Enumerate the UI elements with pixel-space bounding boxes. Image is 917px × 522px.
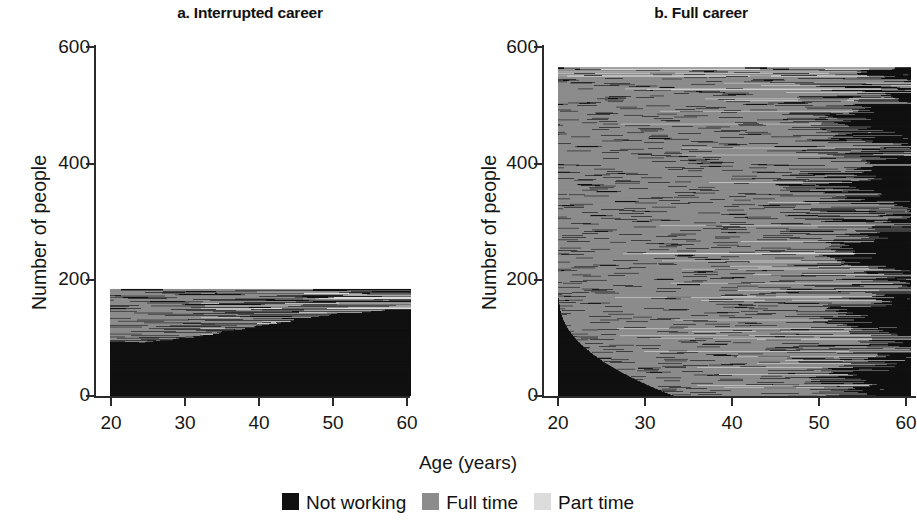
panel-a-ytick-mark-400 — [86, 163, 95, 165]
legend-label-not-working: Not working — [306, 493, 406, 512]
panel-b-xtick-mark-50 — [818, 397, 820, 406]
panel-a-xtick-mark-40 — [258, 397, 260, 406]
panel-b-xtick-mark-20 — [557, 397, 559, 406]
legend-item-not-working: Not working — [282, 492, 406, 511]
panel-b-xtick-40: 40 — [721, 412, 742, 434]
panel-a-xtick-mark-30 — [184, 397, 186, 406]
legend-label-part-time: Part time — [558, 493, 634, 512]
panel-b-xtick-mark-40 — [731, 397, 733, 406]
panel-b-ytick-200: 200 — [484, 268, 538, 290]
panel-a-title: a. Interrupted career — [0, 4, 460, 22]
legend-swatch-full-time — [422, 493, 439, 510]
panel-a-xtick-60: 60 — [396, 412, 417, 434]
panel-b-ytick-mark-0 — [534, 395, 543, 397]
panel-b-ytick-mark-400 — [534, 163, 543, 165]
panel-a-xtick-30: 30 — [174, 412, 195, 434]
panel-b-ytick-mark-200 — [534, 279, 543, 281]
panel-b-xtick-20: 20 — [547, 412, 568, 434]
panel-b-xtick-mark-60 — [905, 397, 907, 406]
panel-a-xtick-20: 20 — [100, 412, 121, 434]
x-axis-title-text: Age (years) — [419, 452, 517, 473]
panel-a-xtick-mark-20 — [110, 397, 112, 406]
panel-a-ytick-200: 200 — [36, 268, 90, 290]
panel-a-y-axis-line — [94, 45, 96, 397]
panel-b-xtick-60: 60 — [895, 412, 916, 434]
panel-interrupted-career: a. Interrupted career Number of people 6… — [0, 0, 460, 490]
panel-b-plot-area — [558, 45, 911, 396]
panel-a-plot-area — [110, 45, 411, 396]
panel-b-sequence-canvas — [558, 45, 911, 396]
x-axis-title: Age (years) — [0, 452, 916, 474]
legend-swatch-not-working — [282, 493, 299, 510]
panel-b-y-axis-line — [542, 45, 544, 397]
panel-b-xtick-30: 30 — [634, 412, 655, 434]
panel-b-xtick-mark-30 — [644, 397, 646, 406]
panel-a-xtick-mark-60 — [406, 397, 408, 406]
legend-swatch-part-time — [534, 493, 551, 510]
panel-a-xtick-50: 50 — [322, 412, 343, 434]
legend-item-part-time: Part time — [534, 492, 634, 511]
panel-a-xtick-40: 40 — [248, 412, 269, 434]
panel-a-ytick-600: 600 — [36, 36, 90, 58]
panel-b-x-axis-line — [542, 396, 916, 398]
panel-a-ytick-mark-600 — [86, 46, 95, 48]
panel-a-ytick-mark-0 — [86, 395, 95, 397]
panel-b-ytick-400: 400 — [484, 152, 538, 174]
panel-a-ytick-mark-200 — [86, 279, 95, 281]
panel-full-career: b. Full career Number of people 600 400 … — [456, 0, 916, 490]
panel-a-x-axis-line — [94, 396, 410, 398]
panel-b-ytick-0: 0 — [484, 384, 538, 406]
panel-b-xtick-50: 50 — [808, 412, 829, 434]
legend-label-full-time: Full time — [446, 493, 518, 512]
panel-b-ytick-600: 600 — [484, 36, 538, 58]
panel-a-xtick-mark-50 — [332, 397, 334, 406]
panel-b-title: b. Full career — [456, 4, 916, 22]
panel-a-ytick-400: 400 — [36, 152, 90, 174]
panel-a-sequence-canvas — [110, 45, 411, 396]
legend-item-full-time: Full time — [422, 492, 518, 511]
panel-b-ytick-mark-600 — [534, 46, 543, 48]
panel-a-ytick-0: 0 — [36, 384, 90, 406]
legend: Not working Full time Part time — [0, 492, 916, 511]
